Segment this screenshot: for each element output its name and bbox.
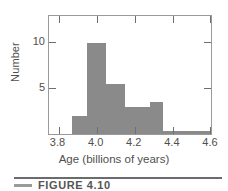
histogram-bar [163,131,211,134]
plot-area [49,16,211,134]
x-axis-tick-label: 4.4 [155,137,189,148]
y-axis-tick-label: 10 [25,36,45,47]
x-axis-tick [59,127,60,134]
y-axis-tick [49,42,56,43]
x-axis-tick-label: 3.8 [41,137,75,148]
y-axis-label: Number [9,30,21,94]
x-axis-tick [173,127,174,134]
x-axis-tick [97,127,98,134]
histogram-bar [125,107,150,134]
histogram-bar [150,102,163,134]
histogram-bar [106,84,125,134]
figure-caption-label: FIGURE 4.10 [38,181,111,191]
x-axis-tick [59,16,60,23]
x-axis-tick [210,127,211,134]
caption-rule-swatch [14,184,32,187]
y-axis-tick-label: 5 [25,82,45,93]
y-axis-tick [204,42,211,43]
figure-container: Number 510 3.84.04.24.44.6 Age (billions… [0,0,228,191]
caption-divider [14,177,222,179]
x-axis-tick-label: 4.2 [117,137,151,148]
x-axis-tick-labels: 3.84.04.24.44.6 [48,137,212,151]
x-axis-tick-label: 4.0 [79,137,113,148]
x-axis-tick [173,16,174,23]
x-axis-tick [210,16,211,23]
x-axis-tick [97,16,98,23]
x-axis-label: Age (billions of years) [0,153,228,165]
plot-frame [48,15,212,135]
histogram-bar [87,43,106,134]
x-axis-tick [135,16,136,23]
figure-caption: FIGURE 4.10 [14,181,222,191]
y-axis-tick [204,88,211,89]
x-axis-tick-label: 4.6 [193,137,227,148]
histogram-bar [72,116,87,134]
x-axis-tick [135,127,136,134]
y-axis-tick [49,88,56,89]
